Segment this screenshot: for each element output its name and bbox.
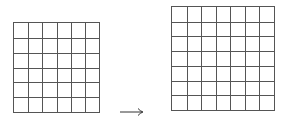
right-grid-7x7 xyxy=(171,6,275,111)
left-grid-6x6 xyxy=(13,22,100,113)
right-arrow-icon xyxy=(119,103,145,118)
